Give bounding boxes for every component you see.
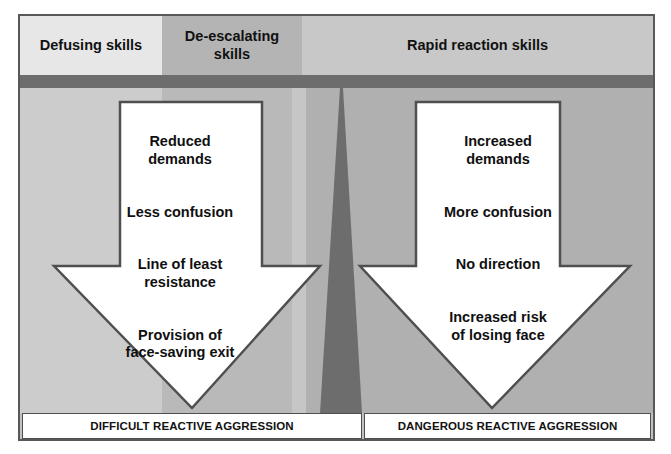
aggression-skills-diagram: Defusing skills De-escalating skills Rap…: [0, 0, 671, 454]
header-segment-de-escalating: De-escalating skills: [162, 16, 302, 75]
dangerous-line-1: Increased demands: [416, 133, 580, 168]
dangerous-line-3: No direction: [416, 256, 580, 273]
difficult-line-1: Reduced demands: [98, 133, 262, 168]
header-segment-defusing: Defusing skills: [20, 16, 162, 75]
footer-label-row: DIFFICULT REACTIVE AGGRESSION DANGEROUS …: [20, 413, 653, 439]
dangerous-outcome-arrow-text: Increased demands More confusion No dire…: [416, 116, 580, 361]
difficult-outcome-arrow-text: Reduced demands Less confusion Line of l…: [98, 116, 262, 379]
dangerous-line-4: Increased risk of losing face: [416, 309, 580, 344]
header-segment-rapid-reaction: Rapid reaction skills: [302, 16, 653, 75]
difficult-line-3: Line of least resistance: [98, 256, 262, 291]
footer-box-dangerous: DANGEROUS REACTIVE AGGRESSION: [364, 413, 651, 439]
header-divider-bar: [20, 75, 653, 88]
diagram-frame: Defusing skills De-escalating skills Rap…: [18, 14, 655, 441]
difficult-line-2: Less confusion: [98, 204, 262, 221]
diagram-body: Reduced demands Less confusion Line of l…: [20, 88, 653, 439]
footer-box-difficult: DIFFICULT REACTIVE AGGRESSION: [22, 413, 362, 439]
difficult-line-4: Provision of face-saving exit: [98, 327, 262, 362]
header-band: Defusing skills De-escalating skills Rap…: [20, 16, 653, 75]
dangerous-line-2: More confusion: [416, 204, 580, 221]
